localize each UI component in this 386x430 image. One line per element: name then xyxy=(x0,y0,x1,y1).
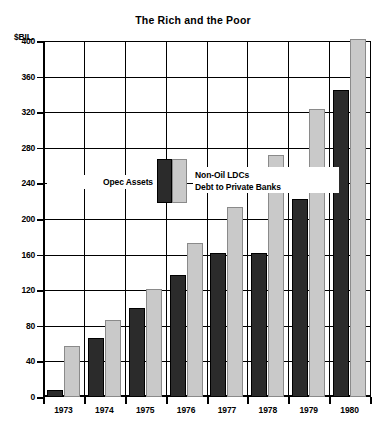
y-tick-mark-320 xyxy=(37,112,43,114)
bar-ldc-debt-1975 xyxy=(146,289,162,397)
legend-label-ldc-debt-line2: Debt to Private Banks xyxy=(195,181,345,193)
gridline-x-3 xyxy=(166,41,167,397)
plot-area: Opec Assets Non-Oil LDCs Debt to Private… xyxy=(43,41,370,397)
bar-opec-assets-1977 xyxy=(210,253,226,397)
y-tick-mark-120 xyxy=(37,290,43,292)
x-tick-mark-5 xyxy=(247,397,249,404)
x-tick-label-1975: 1975 xyxy=(125,405,165,415)
x-tick-label-1973: 1973 xyxy=(43,405,83,415)
x-tick-label-1974: 1974 xyxy=(84,405,124,415)
y-tick-mark-400 xyxy=(37,41,43,43)
y-tick-mark-80 xyxy=(37,326,43,328)
legend-swatch xyxy=(157,159,187,203)
x-tick-label-1978: 1978 xyxy=(248,405,288,415)
x-tick-mark-8 xyxy=(370,397,372,404)
y-tick-mark-240 xyxy=(37,183,43,185)
x-tick-label-1979: 1979 xyxy=(289,405,329,415)
x-tick-label-1976: 1976 xyxy=(166,405,206,415)
gridline-x-2 xyxy=(125,41,126,397)
x-tick-mark-3 xyxy=(166,397,168,404)
y-tick-mark-160 xyxy=(37,255,43,257)
bar-opec-assets-1976 xyxy=(170,275,186,397)
bar-ldc-debt-1977 xyxy=(227,207,243,397)
x-tick-label-1977: 1977 xyxy=(207,405,247,415)
chart-page: The Rich and the Poor $BIL. Opec Assets … xyxy=(0,0,386,430)
bar-ldc-debt-1980 xyxy=(350,39,366,397)
gridline-x-6 xyxy=(288,41,289,397)
y-tick-mark-280 xyxy=(37,148,43,150)
legend-label-ldc-debt-line1: Non-Oil LDCs xyxy=(195,169,345,181)
y-tick-label-40: 40 xyxy=(5,356,35,366)
bar-opec-assets-1973 xyxy=(47,390,63,397)
bar-opec-assets-1980 xyxy=(333,90,349,397)
y-tick-label-360: 360 xyxy=(5,72,35,82)
bar-opec-assets-1974 xyxy=(88,338,104,397)
x-tick-mark-4 xyxy=(207,397,209,404)
gridline-x-4 xyxy=(207,41,208,397)
y-tick-label-280: 280 xyxy=(5,143,35,153)
legend-swatch-ldc-debt xyxy=(172,159,187,203)
bar-opec-assets-1975 xyxy=(129,308,145,397)
bar-opec-assets-1979 xyxy=(292,199,308,397)
page-title: The Rich and the Poor xyxy=(0,14,386,26)
bar-ldc-debt-1974 xyxy=(105,320,121,397)
gridline-x-5 xyxy=(247,41,248,397)
legend-swatch-opec-assets xyxy=(157,159,172,203)
chart-legend: Opec Assets Non-Oil LDCs Debt to Private… xyxy=(89,159,339,211)
y-tick-label-160: 160 xyxy=(5,250,35,260)
bar-ldc-debt-1973 xyxy=(64,346,80,397)
y-tick-label-80: 80 xyxy=(5,321,35,331)
legend-label-opec-assets: Opec Assets xyxy=(45,177,153,187)
gridline-x-7 xyxy=(329,41,330,397)
x-tick-mark-1 xyxy=(84,397,86,404)
x-tick-mark-7 xyxy=(329,397,331,404)
x-tick-mark-2 xyxy=(125,397,127,404)
y-tick-label-320: 320 xyxy=(5,107,35,117)
x-tick-mark-6 xyxy=(288,397,290,404)
gridline-x-1 xyxy=(84,41,85,397)
gridline-x-8 xyxy=(370,41,371,397)
y-tick-mark-200 xyxy=(37,219,43,221)
legend-label-ldc-debt: Non-Oil LDCs Debt to Private Banks xyxy=(195,169,345,193)
bar-opec-assets-1978 xyxy=(251,253,267,397)
y-tick-label-0: 0 xyxy=(5,392,35,402)
y-tick-label-120: 120 xyxy=(5,285,35,295)
bar-ldc-debt-1976 xyxy=(187,243,203,397)
y-tick-label-400: 400 xyxy=(5,36,35,46)
x-tick-mark-0 xyxy=(43,397,45,404)
bar-ldc-debt-1979 xyxy=(309,109,325,397)
x-tick-label-1980: 1980 xyxy=(330,405,370,415)
y-tick-label-200: 200 xyxy=(5,214,35,224)
y-tick-label-240: 240 xyxy=(5,178,35,188)
y-tick-mark-360 xyxy=(37,77,43,79)
y-tick-mark-40 xyxy=(37,361,43,363)
